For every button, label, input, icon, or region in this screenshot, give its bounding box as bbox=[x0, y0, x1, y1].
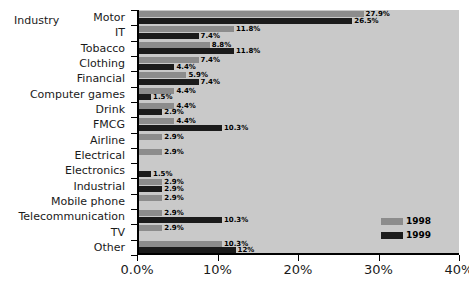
bar-1999 bbox=[139, 79, 199, 85]
bar-value-label: 2.9% bbox=[162, 225, 183, 231]
bar-1998 bbox=[139, 179, 162, 185]
y-axis-label: Drink bbox=[0, 102, 129, 117]
bar-value-label: 12% bbox=[236, 247, 255, 253]
bar-group: 11.8%7.4% bbox=[139, 25, 459, 40]
bar-1998 bbox=[139, 241, 222, 247]
bar-1998 bbox=[139, 225, 162, 231]
bar-group: 2.9% bbox=[139, 148, 459, 163]
bar-group: 2.9% bbox=[139, 194, 459, 209]
bar-1999 bbox=[139, 64, 174, 70]
bar-value-label: 10.3% bbox=[222, 125, 248, 131]
bar-group: 4.4%1.5% bbox=[139, 87, 459, 102]
bar-1998 bbox=[139, 11, 364, 17]
y-axis-label: Electronics bbox=[0, 163, 129, 178]
bar-1999 bbox=[139, 109, 162, 115]
y-axis-label: IT bbox=[0, 25, 129, 40]
bar-value-label: 1.5% bbox=[151, 94, 172, 100]
x-axis-tick-label: 20% bbox=[284, 262, 313, 277]
x-axis-tick bbox=[218, 255, 219, 261]
bar-1998 bbox=[139, 210, 162, 216]
bar-1999 bbox=[139, 33, 199, 39]
y-axis-label: Financial bbox=[0, 71, 129, 86]
bar-value-label: 11.8% bbox=[234, 26, 260, 32]
y-axis-label: Other bbox=[0, 240, 129, 255]
bar-value-label: 4.4% bbox=[174, 118, 195, 124]
bar-1999 bbox=[139, 125, 222, 131]
bar-1998 bbox=[139, 118, 174, 124]
bar-value-label: 2.9% bbox=[162, 149, 183, 155]
x-axis-tick-label: 10% bbox=[203, 262, 232, 277]
bar-1999 bbox=[139, 48, 234, 54]
bar-group: 4.4%10.3% bbox=[139, 117, 459, 132]
x-axis-tick-labels: 0.0%10%20%30%40% bbox=[137, 262, 459, 284]
bar-value-label: 7.4% bbox=[199, 33, 220, 39]
x-axis-tick-marks bbox=[137, 255, 459, 261]
bar-value-label: 2.9% bbox=[162, 210, 183, 216]
y-axis-label: Mobile phone bbox=[0, 194, 129, 209]
bar-1998 bbox=[139, 42, 210, 48]
y-axis-label: Telecommunication bbox=[0, 209, 129, 224]
bar-value-label: 2.9% bbox=[162, 134, 183, 140]
y-axis-category-labels: MotorITTobaccoClothingFinancialComputer … bbox=[0, 10, 129, 255]
bar-1999 bbox=[139, 94, 151, 100]
legend: 19981999 bbox=[381, 215, 451, 243]
bar-1999 bbox=[139, 171, 151, 177]
bar-group: 4.4%2.9% bbox=[139, 102, 459, 117]
bar-1999 bbox=[139, 186, 162, 192]
x-axis-tick-label: 30% bbox=[364, 262, 393, 277]
bar-value-label: 7.4% bbox=[199, 79, 220, 85]
y-axis-label: Airline bbox=[0, 133, 129, 148]
bar-1998 bbox=[139, 149, 162, 155]
x-axis-tick bbox=[298, 255, 299, 261]
y-axis-label: Motor bbox=[0, 10, 129, 25]
bar-value-label: 4.4% bbox=[174, 88, 195, 94]
legend-swatch-icon bbox=[381, 232, 403, 239]
x-axis-tick bbox=[137, 255, 138, 261]
bar-value-label: 2.9% bbox=[162, 186, 183, 192]
y-axis-label: Tobacco bbox=[0, 41, 129, 56]
bar-value-label: 7.4% bbox=[199, 57, 220, 63]
y-axis-label: FMCG bbox=[0, 117, 129, 132]
bar-1999 bbox=[139, 217, 222, 223]
legend-label: 1999 bbox=[406, 231, 431, 240]
legend-swatch-icon bbox=[381, 218, 403, 225]
bar-group: 2.9% bbox=[139, 133, 459, 148]
bar-value-label: 4.4% bbox=[174, 64, 195, 70]
y-axis-label: TV bbox=[0, 224, 129, 239]
bar-value-label: 11.8% bbox=[234, 48, 260, 54]
bar-value-label: 2.9% bbox=[162, 109, 183, 115]
x-axis-tick bbox=[379, 255, 380, 261]
bar-value-label: 2.9% bbox=[162, 195, 183, 201]
bar-value-label: 10.3% bbox=[222, 217, 248, 223]
x-axis-tick-label: 0.0% bbox=[120, 262, 153, 277]
y-axis-label: Computer games bbox=[0, 87, 129, 102]
y-axis-label: Industrial bbox=[0, 178, 129, 193]
legend-item: 1998 bbox=[381, 215, 451, 227]
bar-1999 bbox=[139, 18, 352, 24]
bar-1998 bbox=[139, 72, 186, 78]
x-axis-tick-label: 40% bbox=[445, 262, 469, 277]
y-axis-label: Electrical bbox=[0, 148, 129, 163]
bar-group: 7.4%4.4% bbox=[139, 56, 459, 71]
legend-item: 1999 bbox=[381, 229, 451, 241]
bar-1998 bbox=[139, 134, 162, 140]
bar-chart: Industry MotorITTobaccoClothingFinancial… bbox=[0, 0, 469, 294]
bar-group: 27.9%26.5% bbox=[139, 10, 459, 25]
legend-label: 1998 bbox=[406, 217, 431, 226]
x-axis-tick bbox=[459, 255, 460, 261]
bar-group: 1.5% bbox=[139, 163, 459, 178]
bar-1999 bbox=[139, 247, 236, 253]
bar-group: 8.8%11.8% bbox=[139, 41, 459, 56]
bar-group: 5.9%7.4% bbox=[139, 71, 459, 86]
y-axis-label: Clothing bbox=[0, 56, 129, 71]
bar-value-label: 1.5% bbox=[151, 171, 172, 177]
bar-group: 2.9%2.9% bbox=[139, 178, 459, 193]
bar-value-label: 26.5% bbox=[352, 18, 378, 24]
bar-1998 bbox=[139, 195, 162, 201]
bar-value-label: 8.8% bbox=[210, 42, 231, 48]
